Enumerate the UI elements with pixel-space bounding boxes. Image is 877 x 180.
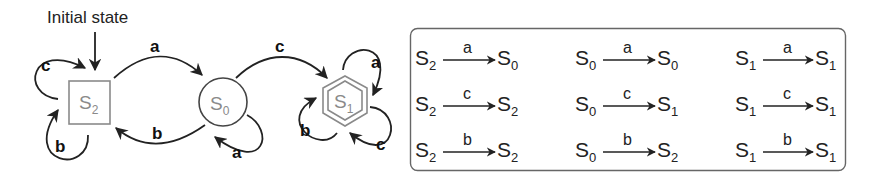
edge-s2-s0-a (114, 57, 202, 78)
initial-state-label: Initial state (47, 8, 128, 27)
state-machine-diagram: Initial state S2 c b a b S0 a c S1 a b c (0, 0, 877, 180)
edge-label-a: a (150, 37, 160, 56)
svg-text:c: c (463, 85, 471, 102)
edge-label-b: b (300, 121, 310, 140)
edge-label-c: c (275, 37, 284, 56)
svg-text:a: a (463, 39, 472, 56)
edge-label-b: b (55, 137, 65, 156)
state-s1: S1 (323, 76, 367, 126)
svg-text:c: c (783, 85, 791, 102)
svg-text:b: b (783, 131, 792, 148)
svg-text:a: a (623, 39, 632, 56)
svg-text:a: a (783, 39, 792, 56)
edge-label-a: a (232, 143, 242, 162)
svg-text:b: b (463, 131, 472, 148)
edge-label-c: c (376, 135, 385, 154)
edge-label-c: c (41, 56, 50, 75)
svg-text:b: b (623, 131, 632, 148)
state-s0: S0 (199, 78, 247, 126)
edge-label-a: a (371, 53, 381, 72)
state-s2: S2 (69, 81, 110, 124)
edge-label-b: b (152, 124, 162, 143)
edge-s0-s1-c (236, 57, 327, 78)
svg-text:c: c (623, 85, 631, 102)
